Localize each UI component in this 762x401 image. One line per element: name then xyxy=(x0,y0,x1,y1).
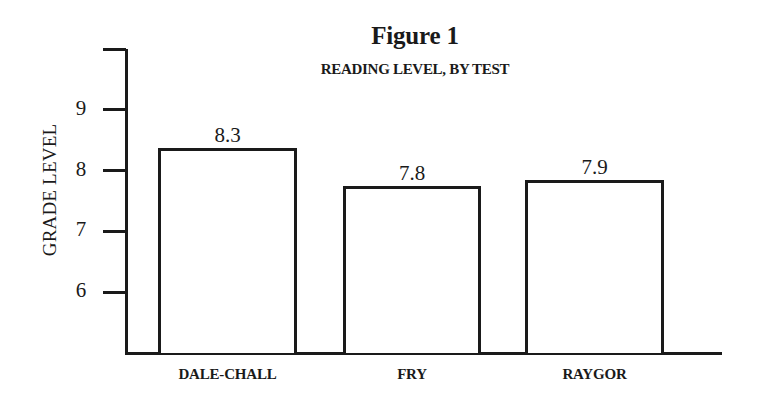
y-tick xyxy=(103,108,126,111)
bar-value-label: 7.8 xyxy=(343,161,481,186)
y-axis-line xyxy=(125,49,128,355)
y-tick-label: 9 xyxy=(71,96,91,121)
y-tick-label: 8 xyxy=(71,157,91,182)
x-category-label: RAYGOR xyxy=(505,366,684,383)
y-tick xyxy=(103,291,126,294)
y-tick xyxy=(103,169,126,172)
y-tick-label: 7 xyxy=(71,217,91,242)
bar-raygor xyxy=(525,180,664,353)
y-tick-label: 6 xyxy=(71,278,91,303)
x-category-label: FRY xyxy=(323,366,501,383)
y-axis-label: GRADE LEVEL xyxy=(39,124,61,257)
x-category-label: DALE-CHALL xyxy=(138,366,317,383)
y-tick xyxy=(103,48,126,51)
chart-subtitle: READING LEVEL, BY TEST xyxy=(0,61,762,78)
bar-fry xyxy=(343,186,481,353)
bar-dale-chall xyxy=(158,148,297,353)
chart-title: Figure 1 xyxy=(0,22,762,50)
bar-value-label: 8.3 xyxy=(158,123,297,148)
y-tick xyxy=(103,230,126,233)
bar-value-label: 7.9 xyxy=(525,155,664,180)
